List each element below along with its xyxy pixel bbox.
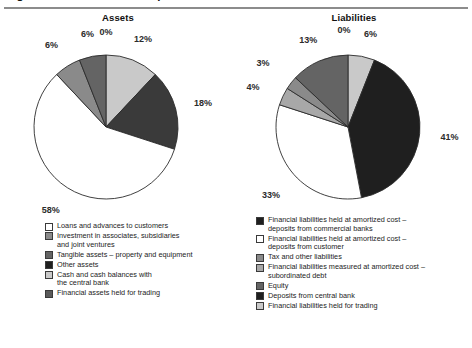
legend-label: Tangible assets – property and equipment (57, 251, 192, 260)
pie-slice-value-label: 33% (262, 190, 280, 200)
liabilities-legend: Financial liabilities held at amortized … (256, 216, 472, 312)
legend-swatch (45, 232, 53, 240)
figure-page: Figure: Balance sheet composition Assets… (0, 0, 472, 348)
list-item[interactable]: Financial liabilities held at amortized … (256, 216, 472, 233)
list-item[interactable]: Other assets (45, 261, 235, 270)
list-item[interactable]: Tangible assets – property and equipment (45, 251, 235, 260)
legend-label: Other assets (57, 261, 98, 270)
liabilities-pie-wrap: 0%6%41%33%4%3%13% (236, 23, 472, 213)
legend-swatch (256, 282, 264, 290)
legend-swatch (256, 254, 264, 262)
legend-label: Financial liabilities held at amortized … (268, 216, 406, 233)
cut-off-heading: Figure: Balance sheet composition (6, 0, 204, 1)
pie-slice-value-label: 13% (299, 35, 317, 45)
liabilities-chart-title: Liabilities (236, 12, 472, 23)
assets-pie-chart: 0%12%18%58%6%6% (0, 23, 236, 213)
assets-legend: Loans and advances to customers Investme… (45, 222, 235, 299)
legend-swatch (45, 251, 53, 259)
pie-slice-value-label: 6% (45, 40, 58, 50)
pie-slice-value-label: 41% (441, 132, 459, 142)
legend-label: Loans and advances to customers (57, 222, 168, 231)
assets-panel: Assets 0%12%18%58%6%6% (0, 12, 236, 213)
legend-swatch (45, 261, 53, 269)
legend-label: Tax and other liabilities (268, 253, 342, 262)
legend-swatch (256, 217, 264, 225)
legend-swatch (45, 223, 53, 231)
list-item[interactable]: Investment in associates, subsidiaries a… (45, 232, 235, 249)
list-item[interactable]: Financial liabilities held at amortized … (256, 235, 472, 252)
legend-label: Deposits from central bank (268, 292, 355, 301)
pie-slice-value-label: 4% (247, 82, 260, 92)
assets-chart-title: Assets (0, 12, 236, 23)
legend-swatch (45, 271, 53, 279)
horizontal-rule (4, 7, 468, 9)
legend-label: Financial liabilities measured at amorti… (268, 263, 425, 280)
list-item[interactable]: Loans and advances to customers (45, 222, 235, 231)
legend-label: Financial liabilities held for trading (268, 302, 378, 311)
assets-pie-wrap: 0%12%18%58%6%6% (0, 23, 236, 213)
legend-label: Financial assets held for trading (57, 289, 160, 298)
list-item[interactable]: Financial liabilities held for trading (256, 302, 472, 311)
pie-slice-value-label: 3% (256, 58, 269, 68)
pie-slice-value-label: 6% (81, 29, 94, 39)
pie-slice-value-label: 12% (134, 34, 152, 44)
list-item[interactable]: Cash and cash balances with the central … (45, 271, 235, 288)
legend-swatch (45, 290, 53, 298)
legend-swatch (256, 302, 264, 310)
pie-slice-value-label: 58% (42, 205, 60, 215)
list-item[interactable]: Tax and other liabilities (256, 253, 472, 262)
pie-slice-value-label: 0% (99, 27, 112, 37)
list-item[interactable]: Financial assets held for trading (45, 289, 235, 298)
list-item[interactable]: Financial liabilities measured at amorti… (256, 263, 472, 280)
liabilities-pie-chart: 0%6%41%33%4%3%13% (236, 23, 472, 213)
liabilities-panel: Liabilities 0%6%41%33%4%3%13% (236, 12, 472, 213)
list-item[interactable]: Equity (256, 282, 472, 291)
legend-label: Financial liabilities held at amortized … (268, 235, 406, 252)
legend-swatch (256, 264, 264, 272)
legend-label: Investment in associates, subsidiaries a… (57, 232, 179, 249)
pie-slice-value-label: 0% (337, 25, 350, 35)
legend-label: Cash and cash balances with the central … (57, 271, 152, 288)
legend-label: Equity (268, 282, 288, 291)
pie-slice-value-label: 18% (194, 98, 212, 108)
legend-swatch (256, 235, 264, 243)
legend-swatch (256, 292, 264, 300)
list-item[interactable]: Deposits from central bank (256, 292, 472, 301)
pie-slice-value-label: 6% (364, 29, 377, 39)
